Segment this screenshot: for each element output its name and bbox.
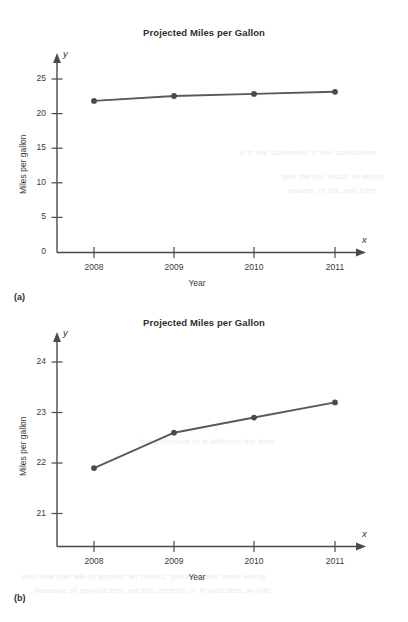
y-tick-label-a-20: 20 — [20, 108, 46, 118]
y-tick-label-a-25: 25 — [20, 73, 46, 83]
x-tick-label-a-2008: 2008 — [74, 262, 114, 272]
x-tick-label-b-2011: 2011 — [315, 556, 355, 566]
panel-label-b: (b) — [14, 593, 26, 603]
x-tick-label-a-2011: 2011 — [315, 262, 355, 272]
panel-label-a: (a) — [14, 292, 25, 302]
y-tick-label-b-24: 24 — [20, 356, 46, 366]
y-tick-label-a-5: 5 — [20, 211, 46, 221]
y-tick-label-b-21: 21 — [20, 508, 46, 518]
x-tick-label-b-2010: 2010 — [234, 556, 274, 566]
y-tick-label-a-0: 0 — [20, 246, 46, 256]
x-axis-title-a: Year — [177, 278, 217, 288]
y-axis-letter-b: y — [63, 327, 68, 338]
y-axis-title-b: Miles per gallon — [18, 416, 28, 476]
x-tick-label-b-2009: 2009 — [154, 556, 194, 566]
y-axis-title-a: Miles per gallon — [18, 134, 28, 194]
x-axis-letter-a: x — [362, 234, 367, 245]
x-tick-label-a-2010: 2010 — [234, 262, 274, 272]
x-tick-label-a-2009: 2009 — [154, 262, 194, 272]
chart-panel-b: Projected Miles per Gallon y x 24 23 22 … — [0, 311, 408, 622]
y-axis-letter-a: y — [63, 48, 68, 59]
chart-panel-a: Projected Miles per Gallon y x 25 20 15 … — [0, 0, 408, 311]
y-tick-label-b-23: 23 — [20, 407, 46, 417]
x-axis-title-b: Year — [177, 572, 217, 582]
x-axis-letter-b: x — [362, 528, 367, 539]
x-tick-label-b-2008: 2008 — [74, 556, 114, 566]
